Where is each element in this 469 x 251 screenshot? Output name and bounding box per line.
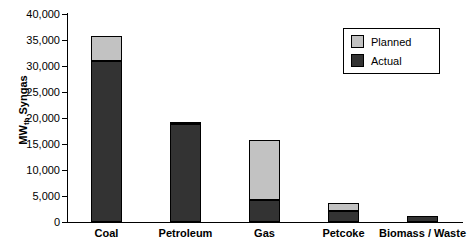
x-axis-line xyxy=(67,222,463,223)
y-tick-mark xyxy=(62,40,67,41)
y-tick-label: 0 xyxy=(54,216,60,228)
x-axis-label-petcoke: Petcoke xyxy=(322,227,364,239)
y-tick-label: 5,000 xyxy=(32,190,60,202)
legend-label-planned: Planned xyxy=(371,36,411,48)
bar-segment-actual xyxy=(407,216,438,222)
bar-segment-actual xyxy=(170,124,201,222)
x-axis-label-gas: Gas xyxy=(254,227,275,239)
chart-legend: Planned Actual xyxy=(343,28,440,74)
y-tick-mark xyxy=(62,118,67,119)
legend-item-planned: Planned xyxy=(351,35,411,48)
bar-segment-planned xyxy=(170,122,201,124)
y-tick-label: 35,000 xyxy=(26,34,60,46)
bar-group xyxy=(249,14,280,222)
y-tick-mark xyxy=(62,66,67,67)
caption-strip xyxy=(0,247,300,251)
legend-swatch-planned-icon xyxy=(351,35,364,48)
bar-group xyxy=(91,14,122,222)
bar-segment-actual xyxy=(328,211,359,222)
bar-segment-planned xyxy=(91,36,122,61)
y-tick-mark xyxy=(62,14,67,15)
x-axis-label-coal: Coal xyxy=(95,227,119,239)
legend-swatch-actual-icon xyxy=(351,54,364,67)
bar-segment-planned xyxy=(249,140,280,200)
y-tick-mark xyxy=(62,144,67,145)
y-tick-mark xyxy=(62,170,67,171)
chart-container: MWth Syngas 05,00010,00015,00020,00025,0… xyxy=(0,0,469,251)
y-tick-label: 25,000 xyxy=(26,86,60,98)
y-tick-label: 20,000 xyxy=(26,112,60,124)
y-tick-mark xyxy=(62,222,67,223)
x-axis-label-petroleum: Petroleum xyxy=(159,227,213,239)
y-tick-mark xyxy=(62,196,67,197)
bar-segment-actual xyxy=(249,200,280,222)
y-tick-mark xyxy=(62,92,67,93)
bar-group xyxy=(170,14,201,222)
legend-item-actual: Actual xyxy=(351,54,402,67)
bar-segment-actual xyxy=(91,61,122,222)
y-tick-label: 10,000 xyxy=(26,164,60,176)
y-tick-label: 40,000 xyxy=(26,8,60,20)
y-tick-label: 15,000 xyxy=(26,138,60,150)
x-axis-label-biomass-waste: Biomass / Waste xyxy=(379,227,466,239)
legend-label-actual: Actual xyxy=(371,55,402,67)
bar-segment-planned xyxy=(328,203,359,210)
y-tick-label: 30,000 xyxy=(26,60,60,72)
